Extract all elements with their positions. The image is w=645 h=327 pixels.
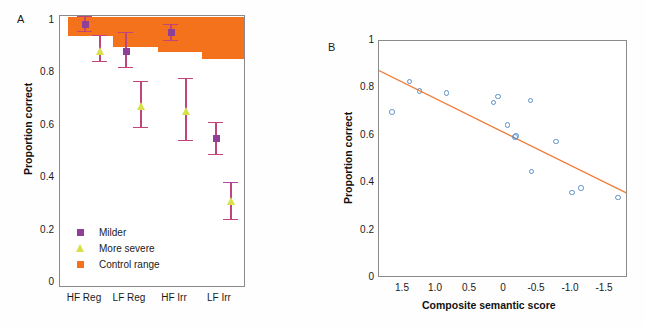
panel-a-plot-area: Milder More severe Control range [60,16,244,286]
marker-more-severe-hf-irr [182,107,190,115]
marker-milder-hf-irr [168,29,175,36]
panel-a-legend: Milder More severe Control range [72,224,160,272]
scatter-point [417,88,423,94]
marker-more-severe-lf-irr [227,197,235,205]
scatter-point [389,109,395,115]
legend-swatch-control-range [72,261,88,268]
control-range-box-hf-irr [158,17,208,52]
scatter-point [615,195,621,201]
panel-b-ytick-label-1: 1 [348,34,374,45]
control-range-box-lf-irr [202,17,244,59]
errorbar-cap-bottom-milder-hf-reg [77,31,92,32]
panel-a-letter: A [17,13,25,25]
panel-b-ytick-label-04: 0.4 [348,176,374,187]
panel-a-ytick-label-04: 0.4 [28,171,54,182]
milder-square-icon [77,229,84,236]
errorbar-cap-bottom-milder-lf-irr [208,154,223,155]
legend-item-more-severe: More severe [72,240,160,256]
marker-more-severe-lf-reg [137,102,145,110]
errorbar-cap-bottom-milder-lf-reg [118,67,133,68]
scatter-point [578,185,584,191]
legend-label-milder: Milder [99,227,126,238]
control-range-square-icon [77,261,84,268]
panel-b-ytick-label-08: 0.8 [348,81,374,92]
panel-b-plot-area [379,41,626,276]
errorbar-cap-top-milder-hf-irr [163,24,178,25]
scatter-point [512,134,518,140]
errorbar-cap-bottom-more-severe-hf-reg [92,61,107,62]
panel-b-x-axis-title: Composite semantic score [422,299,556,311]
panel-b: B Proportion correct 1 0.8 0.6 0.4 0.2 0 [320,0,645,327]
panel-b-y-axis-title: Proportion correct [342,112,354,204]
errorbar-cap-bottom-more-severe-lf-reg [133,127,148,128]
marker-milder-lf-reg [123,48,130,55]
panel-b-plot-frame [378,40,627,277]
marker-milder-lf-irr [213,135,220,142]
errorbar-cap-top-milder-hf-reg [77,16,92,17]
panel-a-ytick-label-02: 0.2 [28,224,54,235]
panel-a: A Proportion correct 1 0.8 0.6 0.4 0.2 0 [0,0,320,327]
control-range-box-hf-reg [68,17,118,36]
marker-milder-hf-reg [82,21,89,28]
legend-label-control-range: Control range [99,259,160,270]
legend-swatch-milder [72,229,88,236]
errorbar-cap-top-more-severe-lf-irr [223,182,238,183]
errorbar-cap-top-more-severe-hf-reg [92,35,107,36]
panel-a-xtick-label-lf-irr: LF Irr [189,292,249,303]
scatter-point [407,79,413,85]
errorbar-cap-top-more-severe-lf-reg [133,81,148,82]
panel-b-ytick-label-06: 0.6 [348,129,374,140]
panel-a-plot-frame: Milder More severe Control range [59,15,245,287]
panel-b-ytick-label-0: 0 [348,271,374,282]
errorbar-cap-top-more-severe-hf-irr [178,78,193,79]
errorbar-cap-bottom-milder-hf-irr [163,40,178,41]
errorbar-cap-bottom-more-severe-lf-irr [223,219,238,220]
panel-b-letter: B [328,41,336,53]
panel-a-ytick-label-0: 0 [28,276,54,287]
marker-more-severe-hf-reg [96,47,104,55]
figure-root: A Proportion correct 1 0.8 0.6 0.4 0.2 0 [0,0,645,327]
errorbar-cap-bottom-more-severe-hf-irr [178,140,193,141]
legend-swatch-more-severe [72,244,88,252]
panel-a-ytick-label-1: 1 [28,14,54,25]
panel-a-ytick-label-08: 0.8 [28,66,54,77]
panel-b-ytick-label-02: 0.2 [348,224,374,235]
panel-a-ytick-label-06: 0.6 [28,119,54,130]
more-severe-triangle-icon [76,244,84,252]
regression-line-svg [379,41,626,276]
legend-item-control-range: Control range [72,256,160,272]
legend-item-milder: Milder [72,224,160,240]
errorbar-cap-top-milder-lf-irr [208,122,223,123]
legend-label-more-severe: More severe [99,243,155,254]
scatter-point [444,90,450,96]
errorbar-cap-top-milder-lf-reg [118,32,133,33]
panel-b-xtick-label-neg15: -1.5 [584,282,624,293]
